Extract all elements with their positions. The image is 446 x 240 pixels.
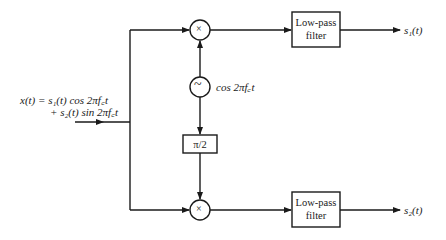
top-filter-line1: Low-pass bbox=[292, 16, 340, 29]
oscillator-symbol: ~ bbox=[194, 79, 202, 91]
phase-shifter-label: π/2 bbox=[183, 138, 217, 151]
top-mixer-symbol: × bbox=[196, 23, 202, 35]
bottom-filter-line2: filter bbox=[292, 209, 340, 222]
input-label-line2: + s₂(t) sin 2πf꜀t bbox=[50, 106, 118, 118]
bottom-filter-label: Low-pass filter bbox=[292, 196, 340, 222]
bottom-output-label: s₂(t) bbox=[404, 204, 423, 216]
bottom-filter-line1: Low-pass bbox=[292, 196, 340, 209]
bottom-mixer-symbol: × bbox=[196, 203, 202, 215]
top-output-label: s₁(t) bbox=[404, 24, 423, 36]
block-diagram-canvas bbox=[0, 0, 446, 240]
top-filter-label: Low-pass filter bbox=[292, 16, 340, 42]
input-label-line1: x(t) = s₁(t) cos 2πf꜀t bbox=[20, 94, 108, 106]
oscillator-label: cos 2πf꜀t bbox=[216, 81, 255, 93]
input-arrow-icon bbox=[96, 119, 104, 125]
top-filter-line2: filter bbox=[292, 29, 340, 42]
